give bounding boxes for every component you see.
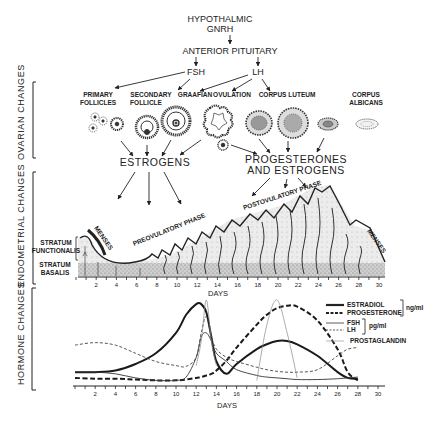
fsh-label: FSH [187, 67, 205, 77]
axis-tick-label: 10 [173, 391, 180, 397]
axis-tick-label: 14 [213, 391, 220, 397]
legend-fsh: FSH [347, 319, 360, 326]
axis-tick-label: 8 [154, 391, 158, 397]
axis-tick-label: 4 [115, 282, 119, 288]
axis-tick-label: 24 [314, 391, 321, 397]
axis-tick-label: 6 [134, 391, 138, 397]
legend-estradiol: ESTRADIOL [347, 301, 385, 308]
svg-text:FUNCTIONALIS: FUNCTIONALIS [32, 247, 81, 254]
ovarian-stages: PRIMARY FOLLICLES SECONDARY FOLLICLE GRA… [80, 91, 384, 205]
legend-unit-pg: pg/ml [369, 322, 387, 330]
axis-tick-label: 8 [155, 282, 159, 288]
hormone-axis-ticks: 24681012141618202224262830 [75, 386, 382, 397]
section-labels: OVARIAN CHANGES ENDOMETRIAL CHANGES HORM… [16, 64, 36, 390]
endometrium-illustration: MENSES PREOVULATORY PHASE POSTOVULATORY … [32, 179, 388, 277]
legend-unit-ng: ng/ml [406, 304, 424, 312]
axis-tick-label: 6 [135, 282, 139, 288]
corpus-albicans-illustration [356, 119, 378, 129]
graafian-follicle-illustration [162, 107, 190, 135]
ovarian-section-label: OVARIAN CHANGES [16, 64, 26, 160]
hormone-chart [75, 300, 358, 381]
pituitary-label: ANTERIOR PITUITARY [182, 46, 277, 56]
primary-follicles-label: PRIMARY [83, 91, 113, 98]
primary-follicles-illustration [89, 113, 107, 132]
svg-text:FOLLICLES: FOLLICLES [80, 99, 117, 106]
hormone-hierarchy: HYPOTHALMIC GNRH ANTERIOR PITUITARY FSH … [115, 14, 278, 91]
axis-tick-label: 28 [354, 391, 361, 397]
axis-tick-label: 30 [376, 282, 383, 288]
legend-lh: LH [347, 326, 356, 333]
axis-tick-label: 10 [174, 282, 181, 288]
svg-text:ALBICANS: ALBICANS [349, 99, 383, 106]
endometrial-axis-label: DAYS [208, 289, 228, 298]
axis-tick-label: 22 [295, 282, 302, 288]
legend-prostaglandin: PROSTAGLANDIN [350, 337, 407, 344]
corpus-luteum-regressing-illustration [318, 118, 338, 130]
axis-tick-label: 2 [95, 282, 99, 288]
ovulation-label: OVULATION [213, 91, 251, 98]
estrogens-label: ESTROGENS [120, 156, 190, 168]
axis-tick-label: 20 [274, 391, 281, 397]
fsh-curve [75, 333, 358, 381]
lh-label: LH [252, 67, 264, 77]
hypothalamus-label: HYPOTHALMIC [187, 14, 253, 24]
stratum-functionalis-label: STRATUM [40, 239, 71, 246]
svg-text:FOLLICLE: FOLLICLE [130, 99, 162, 106]
graafian-label: GRAAFIAN [178, 91, 213, 98]
gnrh-label: GNRH [207, 24, 234, 34]
stratum-basalis-label: STRATUM [39, 261, 70, 268]
axis-tick-label: 12 [194, 282, 201, 288]
svg-text:BASALIS: BASALIS [41, 269, 70, 276]
axis-tick-label: 2 [94, 391, 98, 397]
axis-tick-label: 20 [275, 282, 282, 288]
axis-tick-label: 4 [114, 391, 118, 397]
axis-tick-label: 14 [214, 282, 221, 288]
secondary-follicle-illustration [111, 118, 123, 130]
hormone-section-label: HORMONE CHANGES [16, 282, 26, 385]
estradiol-curve [75, 303, 358, 379]
hormone-axis-label: DAYS [217, 401, 237, 410]
axis-tick-label: 18 [253, 391, 260, 397]
corpus-luteum-early-illustration [246, 111, 272, 135]
axis-tick-label: 26 [335, 282, 342, 288]
hormone-legend: ESTRADIOL PROGESTERONE ng/ml FSH LH pg/m… [326, 300, 424, 344]
axis-tick-label: 28 [355, 282, 362, 288]
axis-tick-label: 24 [315, 282, 322, 288]
axis-tick-label: 18 [254, 282, 261, 288]
ovulation-illustration [204, 106, 233, 151]
secondary-follicle-label: SECONDARY [130, 91, 172, 98]
axis-tick-label: 16 [234, 282, 241, 288]
corpus-luteum-illustration [278, 108, 308, 138]
corpus-luteum-label: CORPUS LUTEUM [259, 91, 316, 98]
axis-tick-label: 16 [233, 391, 240, 397]
axis-tick-label: 26 [334, 391, 341, 397]
corpus-albicans-label: CORPUS [352, 91, 380, 98]
svg-text:AND ESTROGENS: AND ESTROGENS [247, 164, 345, 176]
legend-progesterone: PROGESTERONE [347, 309, 403, 316]
endometrial-axis-ticks: 24681012141618202224262830 [76, 277, 383, 288]
cycle-diagram: HYPOTHALMIC GNRH ANTERIOR PITUITARY FSH … [0, 0, 441, 425]
axis-tick-label: 12 [193, 391, 200, 397]
endometrial-section-label: ENDOMETRIAL CHANGES [16, 164, 26, 287]
axis-tick-label: 22 [294, 391, 301, 397]
antral-follicle-illustration [136, 116, 158, 138]
axis-tick-label: 30 [375, 391, 382, 397]
